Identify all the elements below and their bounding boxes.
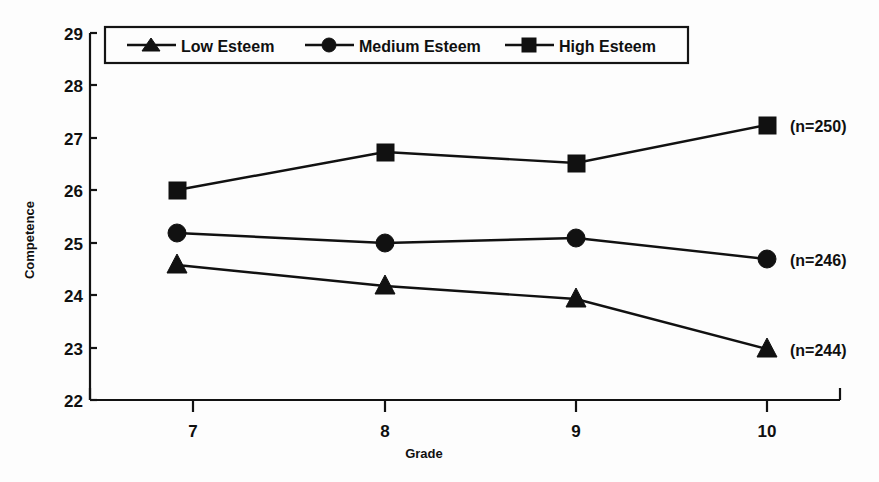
data-point-high-grade-9 — [568, 155, 585, 172]
x-tick-label-8: 8 — [380, 422, 389, 441]
data-point-medium-grade-8 — [376, 234, 394, 252]
legend-label-medium-esteem: Medium Esteem — [359, 38, 481, 55]
data-point-medium-grade-9 — [567, 229, 585, 247]
y-tick-label-22: 22 — [64, 392, 83, 411]
legend-item-high-esteem[interactable]: High Esteem — [505, 38, 656, 55]
legend-label-low-esteem: Low Esteem — [181, 38, 274, 55]
data-point-medium-grade-7 — [168, 224, 186, 242]
annotation-high-esteem-n: (n=250) — [790, 118, 846, 135]
data-point-high-grade-7 — [169, 182, 186, 199]
chart-container: 29 28 27 26 25 24 23 22 Competence 7 8 9… — [0, 0, 879, 482]
y-tick-label-26: 26 — [64, 182, 83, 201]
x-axis-title: Grade — [405, 446, 443, 461]
x-tick-label-7: 7 — [188, 422, 197, 441]
y-axis-title: Competence — [22, 201, 37, 279]
y-tick-label-27: 27 — [64, 130, 83, 149]
competence-by-grade-line-chart: 29 28 27 26 25 24 23 22 Competence 7 8 9… — [0, 0, 879, 482]
data-point-high-grade-10 — [759, 117, 776, 134]
y-tick-label-28: 28 — [64, 77, 83, 96]
annotation-medium-esteem-n: (n=246) — [790, 252, 846, 269]
y-tick-label-24: 24 — [64, 287, 83, 306]
x-tick-label-9: 9 — [571, 422, 580, 441]
square-icon — [522, 38, 536, 52]
data-point-high-grade-8 — [377, 144, 394, 161]
y-tick-label-25: 25 — [64, 235, 83, 254]
annotation-low-esteem-n: (n=244) — [790, 342, 846, 359]
y-tick-label-23: 23 — [64, 340, 83, 359]
legend-label-high-esteem: High Esteem — [559, 38, 656, 55]
y-tick-label-29: 29 — [64, 25, 83, 44]
data-point-medium-grade-10 — [758, 250, 776, 268]
x-tick-label-10: 10 — [758, 422, 777, 441]
circle-icon — [322, 38, 336, 52]
